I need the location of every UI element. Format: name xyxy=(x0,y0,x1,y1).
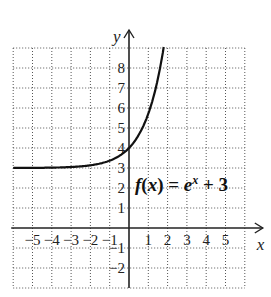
plus-const: + 3 xyxy=(198,174,228,195)
y-tick-label: 6 xyxy=(118,100,126,116)
x-tick-label: 2 xyxy=(164,232,172,248)
fn-var: x xyxy=(148,174,158,195)
y-tick-label: 5 xyxy=(118,120,126,136)
y-tick-label: 7 xyxy=(118,80,126,96)
y-tick-label: 2 xyxy=(118,180,126,196)
y-tick-label: 3 xyxy=(118,160,126,176)
eq: = xyxy=(163,174,183,195)
base: e xyxy=(184,174,192,195)
y-axis-label: y xyxy=(111,27,121,46)
x-tick-label: 5 xyxy=(222,232,230,248)
x-tick-label: −4 xyxy=(44,232,60,248)
function-graph: −5−4−3−2−11234587654321−1−2xy xyxy=(0,0,271,297)
x-axis-label: x xyxy=(256,235,265,254)
y-tick-label: −1 xyxy=(109,240,125,256)
y-tick-label: 1 xyxy=(118,200,126,216)
y-tick-label: 8 xyxy=(118,60,126,76)
x-tick-label: −3 xyxy=(63,232,79,248)
function-label: f(x) = ex + 3 xyxy=(135,173,228,196)
x-tick-label: 4 xyxy=(202,232,210,248)
x-tick-label: 3 xyxy=(183,232,191,248)
y-tick-label: −2 xyxy=(109,260,125,276)
x-tick-label: −2 xyxy=(82,232,98,248)
x-tick-label: 1 xyxy=(145,232,153,248)
x-tick-label: −5 xyxy=(25,232,41,248)
